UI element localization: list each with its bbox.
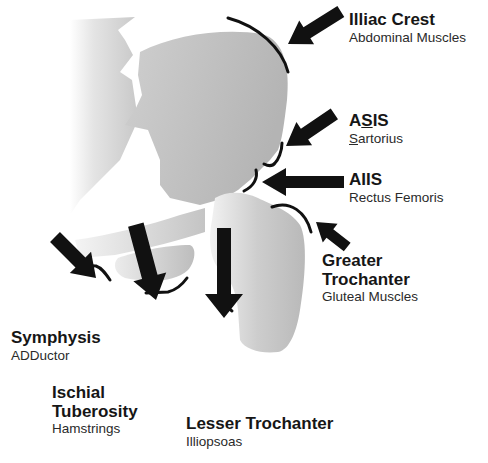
ischial-tuberosity-title-line1: Ischial [52, 384, 138, 403]
symphysis-title: Symphysis [11, 329, 101, 348]
illiac-crest-title: Illiac Crest [349, 11, 466, 30]
aiis-arrow [262, 168, 344, 196]
greater-trochanter-title-line2: Trochanter [322, 271, 418, 290]
label-ischial-tuberosity: Ischial Tuberosity Hamstrings [52, 384, 138, 437]
symphysis-muscle: ADDuctor [11, 349, 101, 364]
aiis-title: AIIS [349, 171, 444, 190]
label-greater-trochanter: Greater Trochanter Gluteal Muscles [322, 252, 418, 305]
ischial-tuberosity-muscle: Hamstrings [52, 422, 138, 437]
asis-muscle: Sartorius [349, 132, 403, 147]
label-illiac-crest: Illiac Crest Abdominal Muscles [349, 11, 466, 46]
sacrum-bone [70, 17, 138, 215]
ilium-bone [125, 32, 288, 205]
greater-trochanter-muscle: Gluteal Muscles [322, 290, 418, 305]
ischial-tuberosity-title-line2: Tuberosity [52, 403, 138, 422]
symphysis-arrow [44, 226, 106, 288]
label-symphysis: Symphysis ADDuctor [11, 329, 101, 364]
label-asis: ASIS Sartorius [349, 112, 403, 147]
illiac-crest-muscle: Abdominal Muscles [349, 31, 466, 46]
label-lesser-trochanter: Lesser Trochanter Illiopsoas [186, 415, 333, 450]
illiac-crest-arrow [281, 0, 348, 56]
asis-title: ASIS [349, 112, 403, 131]
label-aiis: AIIS Rectus Femoris [349, 171, 444, 206]
lesser-trochanter-muscle: Illiopsoas [186, 435, 333, 450]
greater-trochanter-title-line1: Greater [322, 252, 418, 271]
aiis-muscle: Rectus Femoris [349, 191, 444, 206]
asis-arrow [278, 102, 342, 158]
greater-trochanter-arrow [309, 213, 355, 257]
lesser-trochanter-title: Lesser Trochanter [186, 415, 333, 434]
